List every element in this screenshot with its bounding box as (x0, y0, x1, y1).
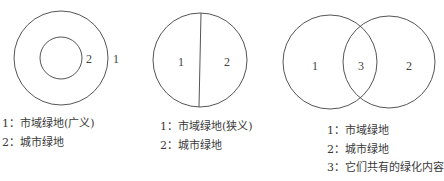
split-diagram: 1 2 (153, 13, 247, 107)
legend-item: 1：市域绿地(广义) (2, 115, 95, 134)
label-right: 2 (224, 55, 230, 69)
venn-right-circle (343, 16, 435, 108)
label-middle: 3 (358, 59, 364, 73)
legend-split: 1：市域绿地(狭义) 2：城市绿地 (160, 118, 253, 155)
legend-item: 3：它们共有的绿化内容 (327, 159, 444, 178)
legend-venn: 1：市域绿地 2：城市绿地 3：它们共有的绿化内容 (327, 122, 444, 178)
concentric-diagram: 2 1 (14, 11, 119, 105)
legend-item: 1：市域绿地 (327, 122, 444, 141)
venn-diagram: 1 3 2 (283, 15, 435, 109)
legend-item: 2：城市绿地 (160, 137, 253, 156)
divider-line (199, 13, 201, 107)
outer-circle (14, 11, 108, 105)
label-inner: 2 (86, 52, 92, 66)
legend-item: 1：市域绿地(狭义) (160, 118, 253, 137)
legend-concentric: 1：市域绿地(广义) 2：城市绿地 (2, 115, 95, 152)
label-outer: 1 (113, 52, 119, 66)
legend-item: 2：城市绿地 (327, 141, 444, 160)
label-left: 1 (178, 55, 184, 69)
label-right: 2 (406, 59, 412, 73)
legend-item: 2：城市绿地 (2, 134, 95, 153)
label-left: 1 (312, 59, 318, 73)
inner-circle (40, 37, 82, 79)
